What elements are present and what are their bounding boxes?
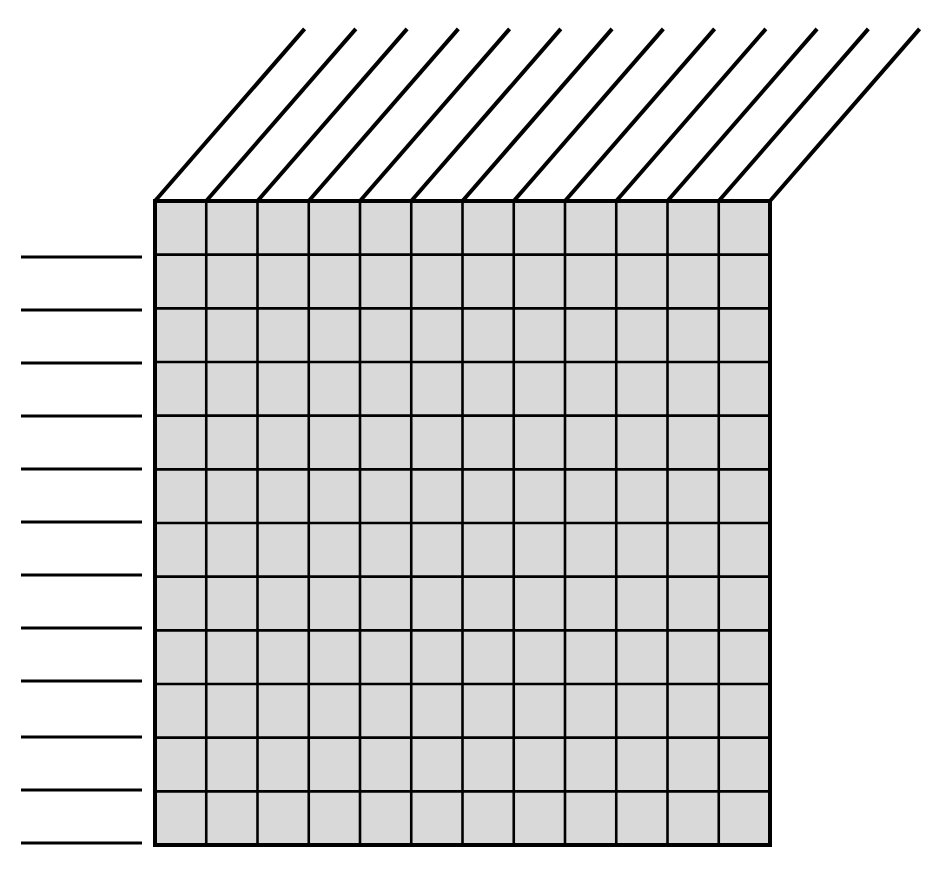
grid-cell-r5-c5 [360, 416, 411, 470]
grid-cell-r5-c3 [258, 416, 309, 470]
grid-cell-r12-c1 [155, 791, 206, 845]
grid-cell-r1-c12 [719, 201, 770, 255]
grid-cell-r2-c11 [668, 255, 719, 309]
grid-cell-r7-c9 [565, 523, 616, 577]
grid-cell-r8-c1 [155, 577, 206, 631]
grid-cell-r12-c4 [309, 791, 360, 845]
grid-cell-r6-c8 [514, 469, 565, 523]
grid-cell-r12-c10 [616, 791, 667, 845]
grid-cell-r4-c9 [565, 362, 616, 416]
grid-cell-r2-c1 [155, 255, 206, 309]
grid-cell-r11-c7 [463, 738, 514, 792]
grid-cell-r6-c4 [309, 469, 360, 523]
grid-cell-r9-c6 [411, 630, 462, 684]
grid-cell-r7-c8 [514, 523, 565, 577]
grid-cell-r1-c5 [360, 201, 411, 255]
grid-cell-r9-c2 [206, 630, 257, 684]
grid-cell-r3-c2 [206, 308, 257, 362]
grid-cell-r7-c6 [411, 523, 462, 577]
grid-cell-r4-c10 [616, 362, 667, 416]
grid-cell-r8-c11 [668, 577, 719, 631]
grid-cell-r11-c10 [616, 738, 667, 792]
grid-cell-r2-c12 [719, 255, 770, 309]
grid-cell-r6-c9 [565, 469, 616, 523]
grid-cell-r1-c3 [258, 201, 309, 255]
grid-cell-r4-c3 [258, 362, 309, 416]
grid-cell-r1-c1 [155, 201, 206, 255]
grid-cell-r12-c9 [565, 791, 616, 845]
grid-cell-r4-c11 [668, 362, 719, 416]
grid-cell-r6-c1 [155, 469, 206, 523]
grid-cell-r11-c8 [514, 738, 565, 792]
grid-cell-r8-c4 [309, 577, 360, 631]
grid-cell-r7-c1 [155, 523, 206, 577]
grid-cell-r5-c1 [155, 416, 206, 470]
grid-cell-r10-c8 [514, 684, 565, 738]
grid-cell-r1-c9 [565, 201, 616, 255]
grid-cell-r3-c5 [360, 308, 411, 362]
grid-cell-r1-c6 [411, 201, 462, 255]
grid-cell-r2-c10 [616, 255, 667, 309]
grid-cell-r12-c8 [514, 791, 565, 845]
grid-cell-r3-c10 [616, 308, 667, 362]
grid-cell-r1-c8 [514, 201, 565, 255]
grid-cell-r10-c5 [360, 684, 411, 738]
grid-cell-r3-c1 [155, 308, 206, 362]
grid-cell-r1-c2 [206, 201, 257, 255]
grid-cell-r6-c11 [668, 469, 719, 523]
grid-cell-r10-c12 [719, 684, 770, 738]
grid-cell-r4-c2 [206, 362, 257, 416]
grid-diagram-svg [0, 0, 950, 870]
grid-cell-r6-c7 [463, 469, 514, 523]
grid-cell-r9-c3 [258, 630, 309, 684]
grid-cell-r1-c4 [309, 201, 360, 255]
grid-cell-r7-c5 [360, 523, 411, 577]
grid-cell-r4-c7 [463, 362, 514, 416]
grid-cell-r6-c3 [258, 469, 309, 523]
grid-cell-r3-c7 [463, 308, 514, 362]
grid-cell-r5-c2 [206, 416, 257, 470]
grid-cell-r3-c4 [309, 308, 360, 362]
grid-cell-r11-c11 [668, 738, 719, 792]
grid-cell-r12-c11 [668, 791, 719, 845]
grid-cell-r9-c11 [668, 630, 719, 684]
grid-cell-r3-c6 [411, 308, 462, 362]
grid-cell-r2-c5 [360, 255, 411, 309]
grid-cell-r1-c11 [668, 201, 719, 255]
grid-cell-r10-c9 [565, 684, 616, 738]
grid-cell-r5-c9 [565, 416, 616, 470]
grid-cell-r4-c8 [514, 362, 565, 416]
grid-cell-r4-c5 [360, 362, 411, 416]
grid-cell-r3-c12 [719, 308, 770, 362]
grid-cell-r3-c9 [565, 308, 616, 362]
grid-cell-r3-c11 [668, 308, 719, 362]
grid-cell-r3-c3 [258, 308, 309, 362]
grid-cell-r12-c12 [719, 791, 770, 845]
grid-cell-r7-c2 [206, 523, 257, 577]
grid-cell-r10-c7 [463, 684, 514, 738]
grid-cell-r3-c8 [514, 308, 565, 362]
grid-cell-r4-c12 [719, 362, 770, 416]
grid-cell-r8-c10 [616, 577, 667, 631]
grid-cell-r5-c11 [668, 416, 719, 470]
grid-cell-r8-c9 [565, 577, 616, 631]
grid-cell-r10-c6 [411, 684, 462, 738]
grid-cell-r4-c1 [155, 362, 206, 416]
grid-cell-r5-c6 [411, 416, 462, 470]
grid-cell-r8-c3 [258, 577, 309, 631]
grid-cell-r7-c4 [309, 523, 360, 577]
grid-cell-r6-c12 [719, 469, 770, 523]
grid-cell-r9-c9 [565, 630, 616, 684]
grid-cell-r4-c4 [309, 362, 360, 416]
grid-cell-r7-c7 [463, 523, 514, 577]
figure-root [0, 0, 950, 870]
grid-cell-r2-c7 [463, 255, 514, 309]
grid-cell-r6-c10 [616, 469, 667, 523]
grid-cell-r10-c3 [258, 684, 309, 738]
grid-cell-r2-c8 [514, 255, 565, 309]
grid-cell-r4-c6 [411, 362, 462, 416]
grid-cell-r9-c5 [360, 630, 411, 684]
grid-cell-r6-c2 [206, 469, 257, 523]
grid-cell-r8-c5 [360, 577, 411, 631]
grid-cell-r10-c11 [668, 684, 719, 738]
